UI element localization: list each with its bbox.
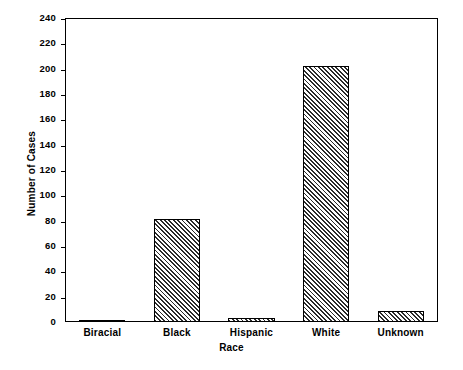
x-tick-label: White <box>289 327 364 338</box>
x-tick-label: Unknown <box>363 327 438 338</box>
bar-chart: Number of Cases 020406080100120140160180… <box>0 0 463 370</box>
y-axis-tick-labels: 020406080100120140160180200220240 <box>20 12 56 332</box>
x-axis-title: Race <box>0 342 463 353</box>
bar <box>228 318 274 322</box>
bar <box>378 311 424 322</box>
bar <box>79 320 125 322</box>
y-tick-label: 160 <box>20 114 56 124</box>
y-tick-label: 40 <box>20 266 56 276</box>
y-tick-label: 140 <box>20 140 56 150</box>
y-tick-label: 200 <box>20 64 56 74</box>
y-tick-label: 240 <box>20 13 56 23</box>
bar <box>154 219 200 322</box>
bars-layer <box>65 18 438 322</box>
x-tick-label: Biracial <box>65 327 140 338</box>
x-tick-label: Hispanic <box>214 327 289 338</box>
y-tick-label: 20 <box>20 292 56 302</box>
y-tick-label: 80 <box>20 216 56 226</box>
y-tick-label: 220 <box>20 38 56 48</box>
y-tick-label: 120 <box>20 165 56 175</box>
x-tick-label: Black <box>140 327 215 338</box>
y-tick-label: 180 <box>20 89 56 99</box>
y-tick-label: 60 <box>20 241 56 251</box>
bar <box>303 66 349 322</box>
y-tick-label: 0 <box>20 317 56 327</box>
y-tick-label: 100 <box>20 190 56 200</box>
